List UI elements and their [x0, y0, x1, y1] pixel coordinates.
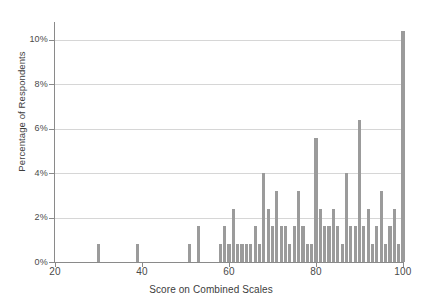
bar: [227, 244, 230, 262]
bar: [349, 226, 352, 262]
y-tick-mark: [49, 173, 54, 174]
bar: [310, 244, 313, 262]
bar: [197, 226, 200, 262]
bar: [393, 209, 396, 262]
bar: [319, 209, 322, 262]
y-axis-line: [54, 22, 55, 263]
bar: [401, 31, 404, 262]
bar: [219, 244, 222, 262]
bar: [388, 226, 391, 262]
bar: [136, 244, 139, 262]
y-tick-label: 0%: [8, 257, 48, 267]
bar: [367, 209, 370, 262]
bar: [301, 226, 304, 262]
bar: [341, 244, 344, 262]
x-axis-title: Score on Combined Scales: [0, 284, 422, 295]
bar: [245, 244, 248, 262]
bar: [371, 244, 374, 262]
bar: [280, 226, 283, 262]
bar: [314, 138, 317, 262]
y-tick-mark: [49, 40, 54, 41]
bar: [249, 244, 252, 262]
bar: [397, 244, 400, 262]
gridline: [55, 173, 403, 174]
x-tick-label: 20: [49, 266, 61, 277]
gridline: [55, 40, 403, 41]
bar: [232, 209, 235, 262]
bar: [188, 244, 191, 262]
bar: [380, 191, 383, 262]
y-tick-label: 4%: [8, 168, 48, 178]
bar: [358, 120, 361, 262]
x-tick-label: 100: [394, 266, 411, 277]
y-tick-label: 8%: [8, 79, 48, 89]
y-tick-mark: [49, 129, 54, 130]
y-axis-title: Percentage of Respondents: [16, 47, 27, 177]
x-tick-label: 40: [136, 266, 148, 277]
bar: [288, 244, 291, 262]
bar: [336, 226, 339, 262]
gridline: [55, 84, 403, 85]
bar: [284, 226, 287, 262]
gridline: [55, 218, 403, 219]
bar: [332, 209, 335, 262]
bar: [306, 244, 309, 262]
x-tick-label: 60: [223, 266, 235, 277]
y-tick-label: 2%: [8, 212, 48, 222]
bar: [275, 191, 278, 262]
bar: [97, 244, 100, 262]
y-tick-mark: [49, 84, 54, 85]
bar: [267, 209, 270, 262]
bar: [384, 244, 387, 262]
histogram-chart: Percentage of Respondents Score on Combi…: [0, 0, 422, 308]
bar: [345, 173, 348, 262]
bar: [262, 173, 265, 262]
bar: [323, 226, 326, 262]
y-tick-label: 10%: [8, 34, 48, 44]
bar: [223, 226, 226, 262]
x-tick-label: 80: [310, 266, 322, 277]
bar: [271, 226, 274, 262]
bar: [254, 226, 257, 262]
y-tick-label: 6%: [8, 123, 48, 133]
bar: [375, 226, 378, 262]
bar: [240, 244, 243, 262]
bar: [297, 191, 300, 262]
gridline: [55, 129, 403, 130]
bar: [236, 244, 239, 262]
bar: [293, 226, 296, 262]
y-tick-mark: [49, 218, 54, 219]
bar: [354, 226, 357, 262]
bar: [362, 226, 365, 262]
bar: [258, 244, 261, 262]
bar: [327, 226, 330, 262]
y-tick-mark: [49, 262, 54, 263]
